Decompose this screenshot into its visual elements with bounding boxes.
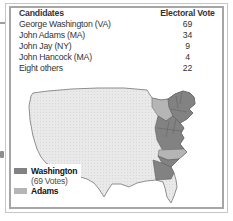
washington-color-swatch <box>14 168 27 174</box>
legend-item-washington: Washington <box>14 166 77 176</box>
map-legend: Washington (69 Votes) Adams <box>12 164 81 198</box>
adams-color-swatch <box>14 188 27 194</box>
legend-label-washington: Washington <box>31 166 77 176</box>
legend-item-adams: Adams <box>14 186 77 196</box>
election-infographic-panel: Candidates Electoral Vote George Washing… <box>0 0 233 221</box>
legend-sublabel-votes: (69 Votes) <box>31 176 77 186</box>
legend-label-adams: Adams <box>31 186 58 196</box>
